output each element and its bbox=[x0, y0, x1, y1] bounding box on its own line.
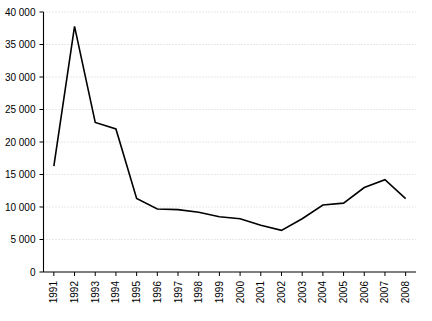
y-tick-label: 15 000 bbox=[5, 169, 36, 180]
x-tick-label: 2008 bbox=[400, 281, 411, 304]
x-tick-labels-group: 1991199219931994199519961997199819992000… bbox=[48, 281, 411, 304]
x-tick-label: 2006 bbox=[359, 281, 370, 304]
chart-canvas: 05 00010 00015 00020 00025 00030 00035 0… bbox=[0, 0, 432, 321]
x-tick-label: 1998 bbox=[193, 281, 204, 304]
y-tick-label: 20 000 bbox=[5, 137, 36, 148]
y-tick-label: 35 000 bbox=[5, 39, 36, 50]
x-tick-marks-group bbox=[54, 272, 406, 276]
x-tick-label: 2005 bbox=[338, 281, 349, 304]
x-tick-label: 1994 bbox=[110, 281, 121, 304]
x-tick-label: 2004 bbox=[317, 281, 328, 304]
data-series-group bbox=[54, 26, 406, 230]
x-tick-label: 1999 bbox=[214, 281, 225, 304]
series-line-1 bbox=[54, 26, 406, 230]
y-tick-label: 25 000 bbox=[5, 104, 36, 115]
y-tick-marks-group bbox=[40, 12, 44, 272]
x-tick-label: 2007 bbox=[379, 281, 390, 304]
y-tick-label: 30 000 bbox=[5, 72, 36, 83]
line-chart: 05 00010 00015 00020 00025 00030 00035 0… bbox=[0, 0, 432, 321]
gridlines-group bbox=[44, 12, 417, 240]
x-tick-label: 1993 bbox=[90, 281, 101, 304]
x-tick-label: 1995 bbox=[131, 281, 142, 304]
y-tick-label: 5 000 bbox=[10, 234, 35, 245]
x-tick-label: 1991 bbox=[48, 281, 59, 304]
y-tick-label: 40 000 bbox=[5, 7, 36, 18]
x-tick-label: 1996 bbox=[152, 281, 163, 304]
x-tick-label: 2003 bbox=[297, 281, 308, 304]
x-tick-label: 2000 bbox=[235, 281, 246, 304]
y-tick-labels-group: 05 00010 00015 00020 00025 00030 00035 0… bbox=[5, 7, 36, 278]
x-tick-label: 2002 bbox=[276, 281, 287, 304]
x-tick-label: 1992 bbox=[69, 281, 80, 304]
x-tick-label: 1997 bbox=[173, 281, 184, 304]
x-tick-label: 2001 bbox=[255, 281, 266, 304]
y-tick-label: 10 000 bbox=[5, 202, 36, 213]
y-tick-label: 0 bbox=[30, 267, 36, 278]
